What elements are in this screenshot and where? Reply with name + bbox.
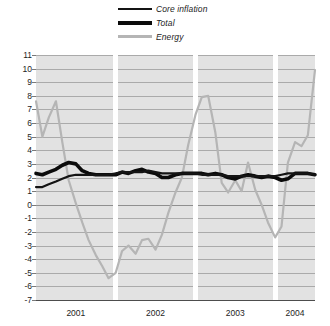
- y-tick-label--2: -2: [2, 228, 32, 237]
- series-layer: [36, 55, 315, 300]
- y-tick-label--3: -3: [2, 242, 32, 251]
- x-tick-label-2001: 2001: [66, 309, 85, 318]
- y-tick-label-9: 9: [2, 78, 32, 87]
- y-tick-label-11: 11: [2, 51, 32, 60]
- y-tick-label-7: 7: [2, 105, 32, 114]
- legend-label-total: Total: [156, 18, 175, 28]
- y-tick-label-10: 10: [2, 65, 32, 74]
- y-tick-label-0: 0: [2, 201, 32, 210]
- plot-area: [36, 55, 315, 300]
- legend-item-total: Total: [118, 16, 268, 29]
- legend-label-core-inflation: Core inflation: [156, 4, 207, 14]
- x-tick-label-2002: 2002: [146, 309, 165, 318]
- legend-swatch-total-icon: [118, 21, 152, 25]
- x-tick-label-2004: 2004: [286, 309, 305, 318]
- y-tick-label-4: 4: [2, 146, 32, 155]
- series-line-total: [36, 163, 315, 181]
- y-tick-label--6: -6: [2, 282, 32, 291]
- y-axis: 11109876543210-1-2-3-4-5-6-7: [0, 55, 32, 300]
- legend-swatch-energy-icon: [118, 35, 152, 38]
- x-axis: 2001200220032004: [36, 300, 315, 326]
- y-tick-label--5: -5: [2, 269, 32, 278]
- legend-label-energy: Energy: [156, 32, 184, 42]
- y-tick-label-2: 2: [2, 174, 32, 183]
- x-tick-label-2003: 2003: [226, 309, 245, 318]
- y-tick-label--4: -4: [2, 255, 32, 264]
- y-tick-label-8: 8: [2, 92, 32, 101]
- y-tick-label--7: -7: [2, 296, 32, 305]
- y-tick-label-6: 6: [2, 119, 32, 128]
- legend-item-core-inflation: Core inflation: [118, 2, 268, 15]
- inflation-line-chart: Core inflation Total Energy 111098765432…: [0, 0, 330, 326]
- y-tick-label-1: 1: [2, 187, 32, 196]
- y-tick-label-5: 5: [2, 133, 32, 142]
- chart-legend: Core inflation Total Energy: [118, 2, 268, 44]
- y-tick-label-3: 3: [2, 160, 32, 169]
- legend-swatch-core-inflation-icon: [118, 8, 152, 10]
- y-tick-label--1: -1: [2, 214, 32, 223]
- x-axis-rule: [36, 300, 315, 301]
- legend-item-energy: Energy: [118, 30, 268, 43]
